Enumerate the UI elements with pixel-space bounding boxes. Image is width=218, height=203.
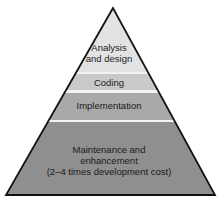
label-line: and design	[0, 53, 218, 64]
label-line: Maintenance and	[0, 144, 218, 155]
label-analysis-design: Analysis and design	[0, 42, 218, 64]
label-coding: Coding	[0, 77, 218, 88]
layer-separator	[0, 72, 218, 74]
label-line: Implementation	[0, 100, 218, 111]
label-line: (2–4 times development cost)	[0, 166, 218, 177]
label-maintenance: Maintenance and enhancement (2–4 times d…	[0, 144, 218, 177]
label-line: enhancement	[0, 155, 218, 166]
label-line: Coding	[0, 77, 218, 88]
label-implementation: Implementation	[0, 100, 218, 111]
layer-separator	[0, 90, 218, 93]
label-line: Analysis	[0, 42, 218, 53]
layer-separator	[0, 120, 218, 122]
